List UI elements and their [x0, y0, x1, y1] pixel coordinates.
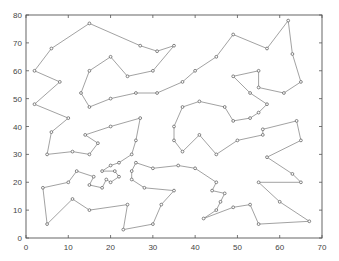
y-tick-label: 50 [13, 95, 22, 104]
data-point-marker [300, 139, 303, 142]
data-point-marker [160, 203, 163, 206]
data-point-marker [261, 128, 264, 131]
data-point-marker [215, 153, 218, 156]
y-tick-label: 20 [13, 178, 22, 187]
data-point-marker [130, 178, 133, 181]
data-point-marker [130, 170, 133, 173]
data-point-marker [109, 125, 112, 128]
tour-points [33, 19, 311, 231]
data-point-marker [118, 161, 121, 164]
data-point-marker [67, 117, 70, 120]
data-point-marker [135, 92, 138, 95]
data-point-marker [88, 69, 91, 72]
data-point-marker [257, 111, 260, 114]
data-point-marker [58, 81, 61, 84]
data-point-marker [177, 164, 180, 167]
data-point-marker [219, 200, 222, 203]
data-point-marker [71, 198, 74, 201]
data-point-marker [266, 103, 269, 106]
y-tick-label: 60 [13, 67, 22, 76]
data-point-marker [113, 170, 116, 173]
data-point-marker [75, 170, 78, 173]
data-point-marker [236, 139, 239, 142]
x-tick-label: 10 [64, 243, 73, 252]
data-point-marker [173, 189, 176, 192]
y-tick-label: 80 [13, 11, 22, 20]
data-point-marker [249, 203, 252, 206]
data-point-marker [130, 153, 133, 156]
data-point-marker [109, 164, 112, 167]
tour-plot: 010203040506070 01020304050607080 [0, 0, 339, 261]
x-tick-label: 70 [318, 243, 327, 252]
data-point-marker [232, 75, 235, 78]
data-point-marker [33, 103, 36, 106]
data-point-marker [101, 170, 104, 173]
data-point-marker [261, 134, 264, 137]
data-point-marker [257, 69, 260, 72]
x-tick-label: 40 [191, 243, 200, 252]
data-point-marker [287, 19, 290, 22]
data-point-marker [173, 44, 176, 47]
data-point-marker [283, 92, 286, 95]
data-point-marker [126, 203, 129, 206]
data-point-marker [249, 117, 252, 120]
y-axis: 01020304050607080 [13, 11, 322, 243]
data-point-marker [135, 161, 138, 164]
y-tick-label: 10 [13, 206, 22, 215]
data-point-marker [67, 181, 70, 184]
x-tick-label: 30 [148, 243, 157, 252]
data-point-marker [50, 47, 53, 50]
data-point-marker [42, 186, 45, 189]
data-point-marker [181, 106, 184, 109]
data-point-marker [135, 139, 138, 142]
data-point-marker [173, 139, 176, 142]
data-point-marker [109, 97, 112, 100]
data-point-marker [257, 181, 260, 184]
data-point-marker [223, 192, 226, 195]
plot-area: 010203040506070 01020304050607080 [13, 11, 327, 252]
data-point-marker [266, 156, 269, 159]
data-point-marker [266, 47, 269, 50]
data-point-marker [300, 181, 303, 184]
data-point-marker [232, 33, 235, 36]
y-tick-label: 30 [13, 150, 22, 159]
data-point-marker [295, 120, 298, 123]
data-point-marker [232, 206, 235, 209]
data-point-marker [156, 92, 159, 95]
data-point-marker [88, 153, 91, 156]
data-point-marker [50, 131, 53, 134]
x-axis: 010203040506070 [24, 15, 327, 252]
data-point-marker [300, 81, 303, 84]
data-point-marker [143, 186, 146, 189]
data-point-marker [88, 106, 91, 109]
data-point-marker [308, 220, 311, 223]
data-point-marker [88, 22, 91, 25]
data-point-marker [194, 167, 197, 170]
data-point-marker [211, 189, 214, 192]
data-point-marker [156, 50, 159, 53]
data-point-marker [202, 217, 205, 220]
data-point-marker [46, 153, 49, 156]
data-point-marker [291, 53, 294, 56]
data-point-marker [215, 181, 218, 184]
y-tick-label: 40 [13, 123, 22, 132]
data-point-marker [97, 142, 100, 145]
data-point-marker [88, 209, 91, 212]
data-point-marker [198, 100, 201, 103]
data-point-marker [223, 106, 226, 109]
data-point-marker [101, 186, 104, 189]
data-point-marker [152, 69, 155, 72]
x-tick-label: 50 [233, 243, 242, 252]
data-point-marker [105, 178, 108, 181]
data-point-marker [139, 44, 142, 47]
data-point-marker [46, 223, 49, 226]
data-point-marker [88, 184, 91, 187]
data-point-marker [152, 223, 155, 226]
data-point-marker [181, 81, 184, 84]
data-point-marker [122, 228, 125, 231]
data-point-marker [257, 223, 260, 226]
data-point-marker [291, 173, 294, 176]
data-point-marker [84, 134, 87, 137]
data-point-marker [126, 75, 129, 78]
data-point-marker [152, 167, 155, 170]
